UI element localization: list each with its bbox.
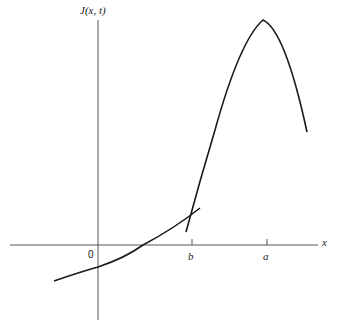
- y-axis-label: J(x, t): [80, 4, 106, 16]
- curve-right-branch: [186, 20, 307, 232]
- tick-label-b: b: [188, 250, 194, 262]
- x-axis-label: x: [322, 236, 327, 248]
- origin-label: 0: [88, 249, 94, 260]
- diagram-canvas: J(x, t) x 0 b a: [0, 0, 338, 325]
- tick-label-a: a: [263, 250, 269, 262]
- diagram-svg: [0, 0, 338, 325]
